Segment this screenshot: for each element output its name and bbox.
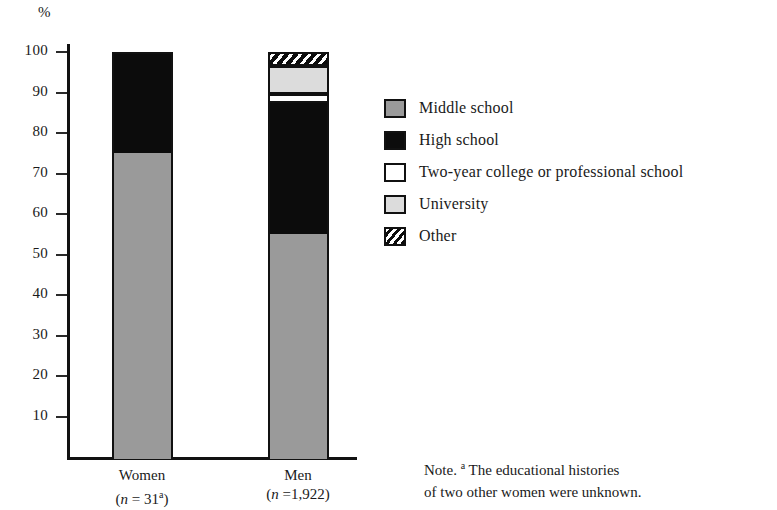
chart-canvas: % 100908070605040302010 Women (n = 31a) …: [0, 0, 777, 510]
legend-label: University: [419, 195, 489, 213]
y-tick-label: 70: [6, 164, 48, 181]
y-tick-mark: [56, 51, 67, 53]
legend-swatch-icon: [384, 227, 406, 246]
category-name-men: Men: [223, 466, 373, 485]
category-name-women: Women: [67, 466, 217, 485]
segment-middle-school-women: [114, 153, 171, 459]
y-tick-mark: [56, 375, 67, 377]
y-tick-mark: [56, 173, 67, 175]
y-tick-label: 20: [6, 366, 48, 383]
category-n-men: (n =1,922): [223, 485, 373, 504]
segment-high-school-women: [114, 54, 171, 153]
y-tick-label: 80: [6, 123, 48, 140]
n-close-women: ): [163, 491, 168, 507]
y-axis-unit-label: %: [38, 4, 51, 21]
n-symbol-women: (n = 31: [116, 491, 159, 507]
bar-women: [112, 52, 173, 457]
note-prefix: Note.: [424, 462, 461, 478]
y-tick-label: 30: [6, 326, 48, 343]
legend-item-middle-school: Middle school: [384, 92, 764, 124]
legend-label: Other: [419, 227, 456, 245]
note-text-1: The educational histories: [465, 462, 619, 478]
legend-label: Middle school: [419, 99, 514, 117]
segment-other-men: [270, 54, 327, 66]
legend-label: High school: [419, 131, 499, 149]
figure-note: Note. a The educational histories of two…: [424, 455, 774, 503]
n-symbol-men: (n =1,922): [266, 486, 329, 502]
legend-item-university: University: [384, 188, 764, 220]
y-tick-mark: [56, 294, 67, 296]
y-tick-mark: [56, 132, 67, 134]
y-tick-mark: [56, 335, 67, 337]
legend-label: Two-year college or professional school: [419, 163, 683, 181]
note-line-1: Note. a The educational histories: [424, 455, 774, 481]
bar-men: [268, 52, 329, 457]
segment-two-year-college-men: [270, 94, 327, 102]
y-axis-line: [67, 44, 70, 460]
segment-middle-school-men: [270, 234, 327, 459]
legend-swatch-icon: [384, 195, 406, 214]
category-label-men: Men (n =1,922): [223, 466, 373, 504]
segment-university-men: [270, 66, 327, 94]
segment-high-school-men: [270, 103, 327, 235]
y-tick-label: 40: [6, 285, 48, 302]
legend-item-other: Other: [384, 220, 764, 252]
legend-swatch-icon: [384, 163, 406, 182]
y-tick-mark: [56, 254, 67, 256]
note-line-2: of two other women were unknown.: [424, 481, 774, 503]
legend-item-high-school: High school: [384, 124, 764, 156]
legend-item-two-year-college-or-professional-school: Two-year college or professional school: [384, 156, 764, 188]
category-label-women: Women (n = 31a): [67, 466, 217, 509]
y-tick-label: 50: [6, 245, 48, 262]
y-tick-label: 60: [6, 204, 48, 221]
legend-swatch-icon: [384, 131, 406, 150]
y-tick-mark: [56, 416, 67, 418]
y-tick-label: 100: [6, 42, 48, 59]
y-tick-mark: [56, 213, 67, 215]
legend: Middle schoolHigh schoolTwo-year college…: [384, 92, 764, 252]
category-n-women: (n = 31a): [67, 485, 217, 509]
legend-swatch-icon: [384, 99, 406, 118]
y-tick-label: 90: [6, 83, 48, 100]
y-tick-label: 10: [6, 407, 48, 424]
y-tick-mark: [56, 92, 67, 94]
